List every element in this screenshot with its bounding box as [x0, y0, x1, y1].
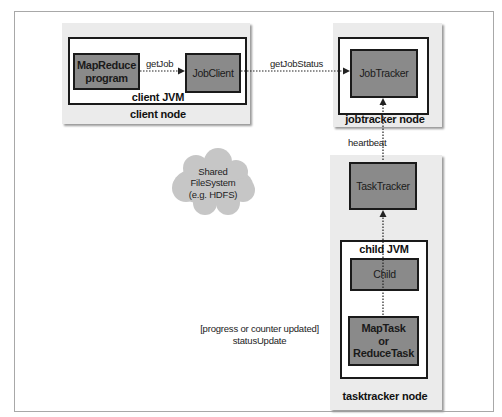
arrowhead-icon: [380, 98, 387, 105]
arrowhead-icon: [380, 210, 387, 217]
edge-label-heartbeat: heartbeat: [348, 137, 386, 148]
edge-label-getjob: getJob: [146, 58, 173, 69]
shared-filesystem-label: Shared FileSystem (e.g. HDFS): [189, 166, 237, 200]
arrowhead-icon: [343, 68, 350, 75]
edge-label-statusupdate: [progress or counter updated] statusUpda…: [200, 323, 319, 347]
connectors: [0, 0, 502, 417]
arrowhead-icon: [178, 68, 185, 75]
edge-label-getjobstatus: getJobStatus: [270, 58, 323, 69]
